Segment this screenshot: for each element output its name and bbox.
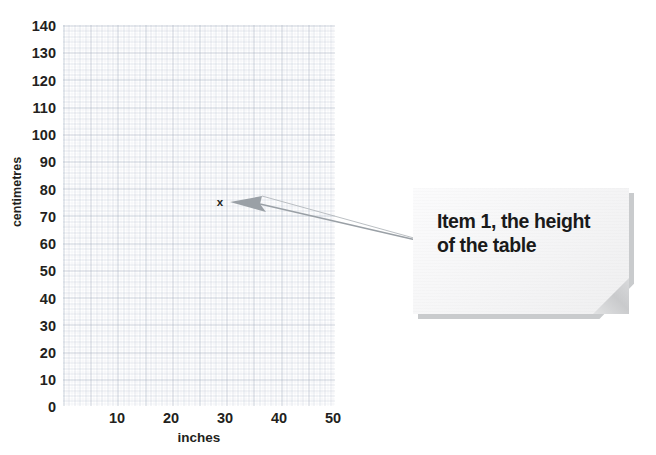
x-tick-30: 30 bbox=[205, 411, 245, 426]
y-tick-0: 0 bbox=[12, 400, 56, 415]
callout-line-2: of the table bbox=[437, 234, 617, 258]
graph-annotation-figure: 140 130 120 110 100 90 80 70 60 50 40 30… bbox=[0, 0, 656, 455]
y-tick-20: 20 bbox=[12, 346, 56, 361]
y-tick-10: 10 bbox=[12, 373, 56, 388]
y-tick-30: 30 bbox=[12, 319, 56, 334]
y-tick-110: 110 bbox=[12, 101, 56, 116]
y-tick-40: 40 bbox=[12, 292, 56, 307]
callout-text: Item 1, the height of the table bbox=[437, 210, 617, 258]
y-tick-50: 50 bbox=[12, 264, 56, 279]
y-tick-120: 120 bbox=[12, 74, 56, 89]
x-tick-10: 10 bbox=[97, 411, 137, 426]
x-tick-40: 40 bbox=[259, 411, 299, 426]
callout-arrow-icon bbox=[220, 190, 425, 250]
callout-line-1: Item 1, the height bbox=[437, 210, 617, 234]
y-tick-140: 140 bbox=[12, 19, 56, 34]
y-tick-130: 130 bbox=[12, 46, 56, 61]
x-tick-20: 20 bbox=[151, 411, 191, 426]
x-axis-title: inches bbox=[63, 430, 335, 445]
x-tick-50: 50 bbox=[313, 411, 353, 426]
callout-note: Item 1, the height of the table bbox=[413, 188, 629, 314]
y-axis-title: centimetres bbox=[10, 137, 24, 247]
